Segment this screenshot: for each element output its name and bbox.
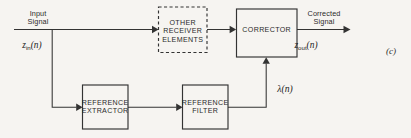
input-signal-symbol: zin(n) [21, 40, 41, 51]
input-symbol-arg: (n) [31, 40, 42, 51]
block-other-receiver-elements-line-2: RECEIVER [163, 27, 202, 35]
arrowhead-into-corrector [230, 26, 237, 33]
panel-tag: (c) [386, 46, 396, 56]
svg-text:zout(n): zout(n) [293, 40, 317, 51]
block-corrector[interactable]: CORRECTOR [237, 9, 298, 57]
output-symbol-sub: out [298, 44, 307, 51]
block-reference-extractor[interactable]: REFERENCE EXTRACTOR [82, 85, 129, 129]
block-reference-filter[interactable]: REFERENCE FILTER [182, 85, 229, 129]
output-signal-caption: Corrected Signal [308, 9, 341, 27]
wire-input-tap-to-extractor [52, 30, 82, 111]
input-signal-caption-line-1: Input [30, 9, 47, 18]
input-signal-caption: Input Signal [28, 9, 49, 27]
block-other-receiver-elements-line-1: OTHER [169, 19, 196, 27]
block-diagram-figure: OTHER RECEIVER ELEMENTS CORRECTOR REFERE… [0, 0, 411, 138]
output-signal-caption-line-2: Signal [314, 17, 335, 26]
input-signal-caption-line-2: Signal [28, 17, 49, 26]
block-reference-filter-line-1: REFERENCE [182, 99, 229, 107]
output-signal-caption-line-1: Corrected [308, 9, 341, 18]
output-symbol-arg: (n) [307, 40, 318, 51]
block-reference-filter-line-2: FILTER [192, 107, 218, 115]
feedback-signal-label: λ(n) [276, 83, 292, 95]
arrowhead-output [344, 26, 351, 33]
block-reference-extractor-line-1: REFERENCE [82, 99, 129, 107]
arrowhead-feedback-into-corrector [263, 57, 270, 64]
block-other-receiver-elements[interactable]: OTHER RECEIVER ELEMENTS [159, 7, 208, 53]
wire-corrector-to-output [297, 26, 351, 33]
wire-input-to-receiver [14, 26, 159, 33]
arrowhead-into-receiver [152, 26, 159, 33]
block-other-receiver-elements-line-3: ELEMENTS [162, 36, 203, 44]
wire-filter-to-corrector-feedback [228, 57, 270, 107]
output-signal-symbol: zout(n) [293, 40, 317, 51]
svg-text:zin(n): zin(n) [21, 40, 41, 51]
block-corrector-label: CORRECTOR [242, 26, 291, 34]
wire-extractor-to-filter [128, 104, 183, 111]
block-reference-extractor-line-2: EXTRACTOR [82, 107, 129, 115]
wire-receiver-to-corrector [207, 26, 236, 33]
